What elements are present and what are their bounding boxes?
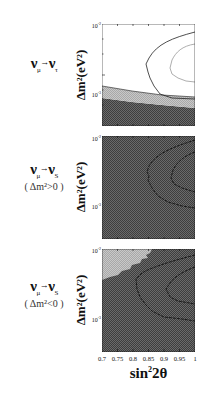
ytick-label: 10-3 <box>92 315 101 323</box>
arrow-icon: → <box>40 57 49 67</box>
arrow-icon: → <box>40 163 49 173</box>
y-axis-label-2: Δm²(eV²) <box>71 137 91 237</box>
ytick-label: 10-2 <box>92 246 101 254</box>
dark-shaded-region <box>102 136 195 239</box>
plot-panel-nutau <box>102 24 195 126</box>
ytick-label: 10-2 <box>92 21 101 29</box>
plot-panel-nus-negative <box>102 249 195 352</box>
x-axis-label: sin22θ <box>102 365 195 382</box>
ytick-label: 10-3 <box>92 202 101 210</box>
arrow-icon: → <box>40 280 49 290</box>
x-tick-labels: 0.7 0.75 0.8 0.85 0.9 0.95 1 <box>98 355 199 365</box>
ytick-label: 10-3 <box>92 90 101 98</box>
plot-panel-nus-positive <box>102 136 195 239</box>
ytick-label: 10-2 <box>92 134 101 142</box>
y-axis-label-3: Δm²(eV²) <box>71 250 91 350</box>
y-axis-label-1: Δm²(eV²) <box>71 25 91 125</box>
